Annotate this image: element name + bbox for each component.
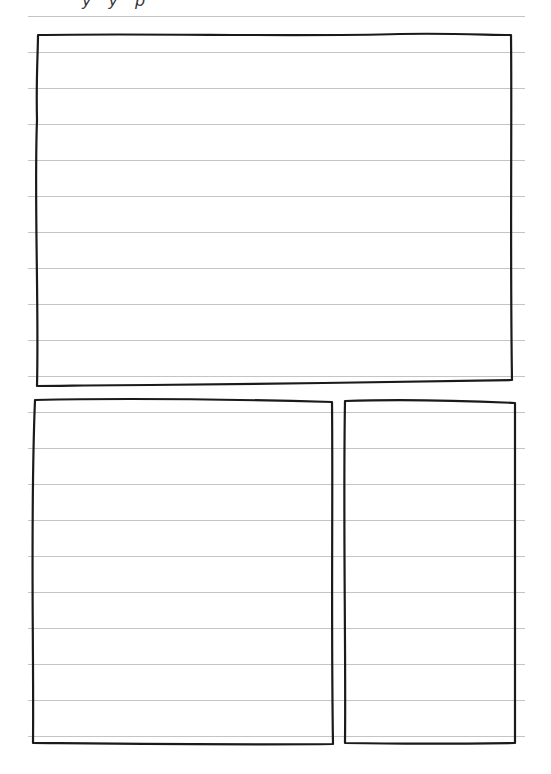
panel-top: [38, 35, 512, 386]
panel-bottom-right: [345, 401, 515, 744]
notebook-page: y y p: [0, 0, 551, 774]
panel-bottom-left: [35, 400, 333, 744]
